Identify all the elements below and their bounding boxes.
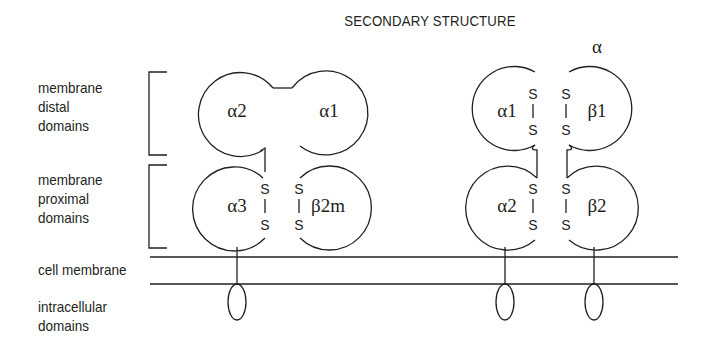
sulfur-label: S — [294, 217, 303, 233]
sulfur-label: S — [528, 181, 537, 197]
label-classII-beta2: β2 — [587, 195, 606, 216]
sulfur-label: S — [561, 217, 570, 233]
sulfur-label: S — [528, 86, 537, 102]
mhc-diagram: α α2 α1 α3 β2m S S S S α1 β1 α2 β2 S S S… — [0, 0, 710, 354]
label-classI-alpha1: α1 — [319, 100, 338, 121]
classII-beta-connector — [567, 145, 572, 178]
label-classII-beta1: β1 — [587, 100, 606, 121]
classII-alpha-connector — [532, 145, 537, 178]
label-classII-alpha1: α1 — [497, 100, 516, 121]
sulfur-label: S — [561, 86, 570, 102]
bracket-proximal — [149, 165, 167, 248]
top-alpha-label: α — [592, 36, 602, 57]
classI-intracellular-tail — [228, 284, 246, 320]
bracket-distal — [149, 72, 167, 155]
sulfur-label: S — [561, 181, 570, 197]
sulfur-label: S — [294, 181, 303, 197]
label-classI-alpha2: α2 — [227, 100, 246, 121]
label-classII-alpha2: α2 — [497, 195, 516, 216]
label-classI-beta2m: β2m — [311, 195, 345, 216]
label-classI-alpha3: α3 — [227, 195, 246, 216]
sulfur-label: S — [260, 217, 269, 233]
sulfur-label: S — [528, 122, 537, 138]
classII-beta-intracellular-tail — [585, 284, 603, 320]
sulfur-label: S — [260, 181, 269, 197]
classII-alpha-intracellular-tail — [496, 284, 514, 320]
sulfur-label: S — [528, 217, 537, 233]
sulfur-label: S — [561, 122, 570, 138]
